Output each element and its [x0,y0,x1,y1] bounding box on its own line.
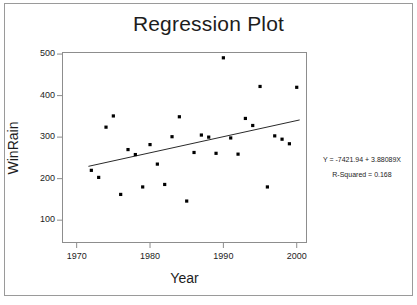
x-axis-title: Year [62,270,307,286]
x-tick-label: 1990 [203,251,243,261]
page-title: Regression Plot [0,12,417,36]
regression-annotation: Y = -7421.94 + 3.88089X R-Squared = 0.16… [310,152,414,182]
x-tick-label: 1970 [57,251,97,261]
y-tick-label: 300 [21,131,55,141]
x-tick-label: 2000 [277,251,317,261]
y-tick-label: 100 [21,214,55,224]
regression-plot-screenshot: Regression Plot 100200300400500 19701980… [0,0,417,305]
y-tick-label: 200 [21,173,55,183]
r-squared-text: R-Squared = 0.168 [310,167,414,182]
x-tick-label: 1980 [130,251,170,261]
y-axis-title: WinRain [5,108,21,188]
y-tick-label: 400 [21,90,55,100]
plot-area [62,52,307,243]
y-tick-label: 500 [21,48,55,58]
regression-equation-text: Y = -7421.94 + 3.88089X [310,152,414,167]
